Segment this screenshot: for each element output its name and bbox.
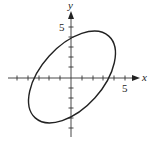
y-tick-label-5: 5 [59, 21, 65, 33]
x-axis-label: x [141, 71, 147, 83]
x-axis-arrow-icon [132, 75, 140, 81]
y-axis-label: y [67, 0, 73, 11]
y-axis [69, 16, 74, 137]
ellipse-graph: x y 5 5 [0, 0, 154, 143]
y-axis-arrow-icon [68, 11, 74, 19]
x-tick-label-5: 5 [122, 82, 128, 94]
